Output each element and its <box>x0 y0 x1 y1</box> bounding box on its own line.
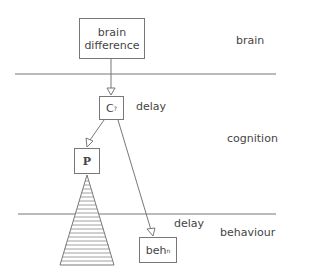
behaviour-node: behn <box>139 237 177 263</box>
delay-label-behaviour: delay <box>174 217 204 230</box>
brain-difference-node: brain difference <box>79 18 145 59</box>
p-node-label: P <box>83 155 91 168</box>
cognition-node-subscript: ? <box>114 102 117 115</box>
hatched-triangle <box>60 175 114 265</box>
brain-difference-line1: brain <box>98 26 126 39</box>
level-label-brain: brain <box>236 34 264 47</box>
delay-label-cognition: delay <box>136 100 166 113</box>
cognition-node-label: C <box>106 102 114 115</box>
p-node: P <box>74 148 100 174</box>
level-label-behaviour: behaviour <box>220 226 275 239</box>
level-label-cognition: cognition <box>227 132 278 145</box>
behaviour-node-subscript: n <box>166 244 170 257</box>
cognition-node: C? <box>99 96 124 120</box>
behaviour-node-label: beh <box>146 244 167 257</box>
brain-difference-line2: difference <box>84 39 139 52</box>
